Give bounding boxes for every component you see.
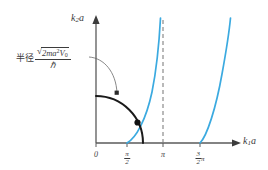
tick-label-0-text: 0 (94, 150, 98, 159)
tick-label-3pi-over-2-symbol: π (201, 155, 205, 163)
tick-label-0: 0 (94, 150, 98, 159)
radicand-tail-subscript: 0 (65, 52, 68, 58)
tick-label-pi-over-2-fraction: π 2 (124, 151, 130, 166)
tick-label-3pi-over-2-group: 3 2 π (195, 151, 204, 166)
tick-label-pi-over-2-denominator: 2 (124, 159, 130, 166)
sqrt-group: √2ma2V0 (37, 47, 69, 58)
figure-background (0, 0, 268, 170)
right-angle-square-marker (115, 91, 119, 95)
tick-label-pi-over-2-numerator: π (124, 151, 130, 158)
finite-well-graphical-solution-figure (0, 0, 268, 170)
tick-label-pi: π (161, 150, 165, 159)
tick-label-pi-text: π (161, 150, 165, 159)
x-axis-label-tail: a (251, 135, 256, 146)
radius-formula-denominator: ℏ (48, 60, 57, 70)
intersection-point-dot (134, 119, 140, 125)
radius-formula-numerator: √2ma2V0 (35, 47, 71, 59)
tick-label-pi-over-2: π 2 (124, 149, 130, 166)
radius-word-label: 半径 (16, 54, 34, 63)
radius-annotation: 半径 √2ma2V0 ℏ (16, 47, 71, 70)
radius-formula-fraction: √2ma2V0 ℏ (35, 47, 71, 70)
x-axis-label: k1a (243, 136, 256, 147)
radicand-body: 2ma (42, 48, 57, 58)
y-axis-label-tail: a (79, 12, 84, 23)
sqrt-radicand: 2ma2V0 (41, 47, 69, 58)
y-axis-label: k2a (71, 13, 84, 24)
tick-label-3pi-over-2: 3 2 π (195, 149, 204, 166)
